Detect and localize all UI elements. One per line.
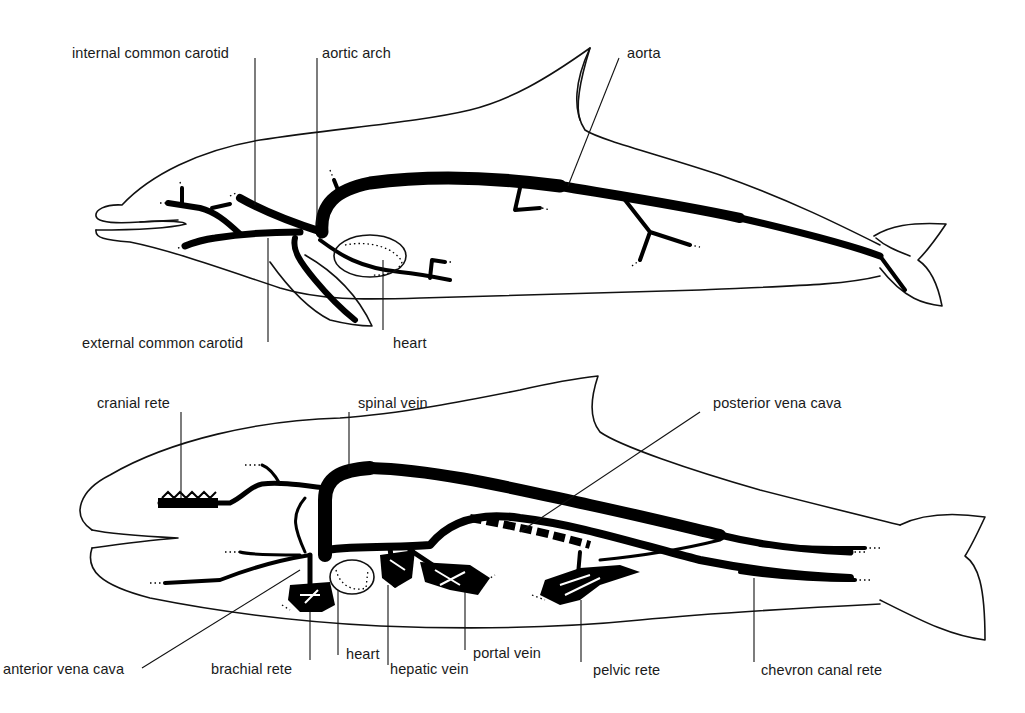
label-posterior-vena-cava: posterior vena cava — [713, 395, 841, 411]
bottom-heart — [330, 560, 374, 594]
label-external-common-carotid: external common carotid — [82, 335, 243, 351]
diagram-artwork — [0, 0, 1025, 713]
label-internal-common-carotid: internal common carotid — [72, 45, 229, 61]
label-spinal-vein: spinal vein — [358, 395, 428, 411]
label-hepatic-vein: hepatic vein — [390, 661, 469, 677]
label-cranial-rete: cranial rete — [97, 395, 170, 411]
circulatory-diagram: internal common carotid aortic arch aort… — [0, 0, 1025, 713]
bottom-leader-lines — [142, 412, 754, 668]
label-chevron-canal-rete: chevron canal rete — [761, 662, 882, 678]
top-vessels — [168, 178, 905, 320]
label-heart-bottom: heart — [346, 646, 380, 662]
label-heart-top: heart — [393, 335, 427, 351]
label-anterior-vena-cava: anterior vena cava — [3, 661, 124, 677]
top-leader-lines — [255, 58, 619, 342]
label-pelvic-rete: pelvic rete — [593, 662, 660, 678]
label-aorta: aorta — [627, 45, 661, 61]
label-portal-vein: portal vein — [473, 645, 541, 661]
label-brachial-rete: brachial rete — [211, 661, 292, 677]
label-aortic-arch: aortic arch — [322, 45, 391, 61]
